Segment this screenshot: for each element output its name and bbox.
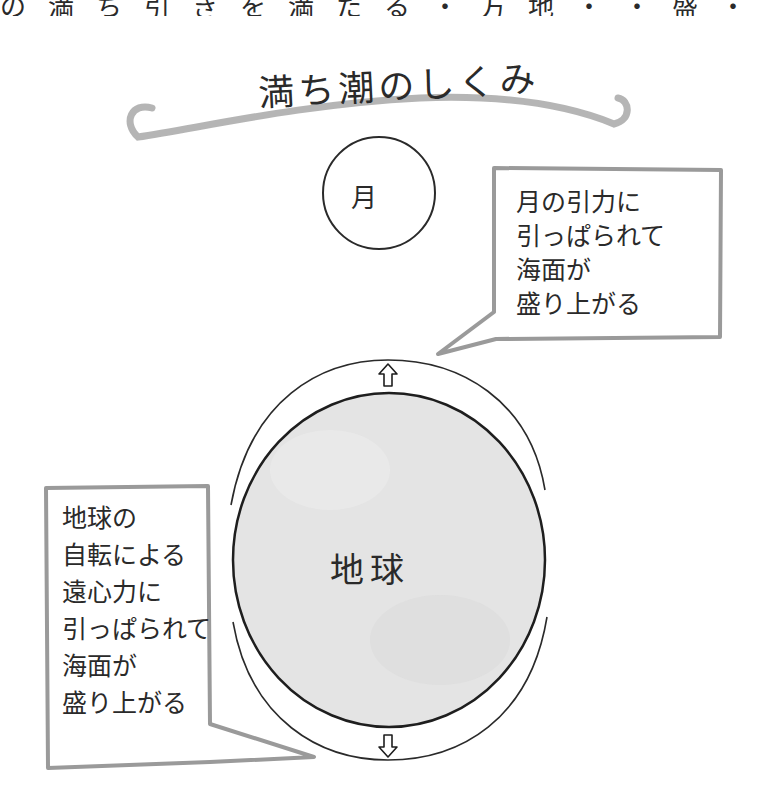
bubble-left-line: 自転による (62, 537, 211, 574)
bubble-left-line: 引っぱられて (62, 611, 211, 648)
bubble-right-line: 海面が (516, 254, 665, 288)
bubble-right-line: 引っぱられて (516, 220, 665, 254)
bubble-left-text: 地球の 自転による 遠心力に 引っぱられて 海面が 盛り上がる (62, 500, 211, 722)
bubble-left-line: 盛り上がる (62, 685, 211, 722)
down-arrow-icon (379, 735, 397, 757)
bubble-right-text: 月の引力に 引っぱられて 海面が 盛り上がる (516, 186, 665, 322)
bubble-right-line: 月の引力に (516, 186, 665, 220)
moon-circle (323, 137, 435, 249)
earth-label: 地球 (330, 543, 410, 592)
moon-label: 月 (351, 177, 377, 214)
bubble-left-line: 海面が (62, 648, 211, 685)
bubble-left-line: 遠心力に (62, 574, 211, 611)
up-arrow-icon (379, 364, 397, 386)
bubble-right-line: 盛り上がる (516, 288, 665, 322)
bubble-left-line: 地球の (62, 500, 211, 537)
